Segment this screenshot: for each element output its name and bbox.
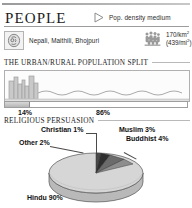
pie-label-christian: Christian 1% — [41, 126, 83, 133]
pop-density-tag-label: Pop. density medium — [109, 14, 171, 21]
pie-label-muslim: Muslim 3% — [119, 126, 155, 133]
languages-fact: Nepali, Maithili, Bhojpuri — [4, 31, 99, 50]
top-divider-rule — [2, 3, 190, 5]
density-values: 170/km2 (439/mi2) — [166, 31, 192, 47]
pie-label-hindu: Hindu 90% — [27, 194, 63, 201]
leader-line-christian-horizontal — [86, 133, 97, 134]
urban-rural-section-header: THE URBAN/RURAL POPULATION SPLIT — [4, 58, 190, 67]
religion-pie-chart: Christian 1% Muslim 3% Buddhist 4% Other… — [0, 126, 192, 208]
section-divider-rule — [152, 62, 190, 63]
facts-row: Nepali, Maithili, Bhojpuri 170/km2 (439/… — [4, 30, 190, 54]
urban-percent-label: 14% — [18, 109, 32, 116]
face-profile-icon — [4, 31, 24, 50]
urban-share-fill — [5, 102, 30, 107]
urban-rural-split-bar — [4, 101, 188, 108]
crowd-people-icon — [144, 30, 161, 47]
urban-rural-title: THE URBAN/RURAL POPULATION SPLIT — [4, 58, 148, 67]
density-fact: 170/km2 (439/mi2) — [144, 30, 192, 47]
density-metric-exponent: 2 — [187, 29, 189, 34]
religion-title: RELIGIOUS PERSUASION — [4, 116, 94, 125]
pie-label-buddhist: Buddhist 4% — [126, 135, 168, 142]
languages-value: Nepali, Maithili, Bhojpuri — [29, 37, 99, 44]
section-divider-rule-2 — [98, 120, 190, 121]
urban-rural-illustration — [4, 70, 190, 102]
page-title: PEOPLE — [4, 10, 67, 27]
rural-percent-label: 86% — [96, 109, 110, 116]
triangle-right-icon — [94, 12, 104, 23]
leader-line-christian-vertical — [96, 133, 97, 153]
density-imperial: (439/mi2) — [166, 39, 192, 47]
pop-density-tag: Pop. density medium — [93, 8, 190, 26]
pie-label-other: Other 2% — [19, 139, 50, 146]
religion-section-header: RELIGIOUS PERSUASION — [4, 116, 190, 125]
people-header-underline — [4, 26, 189, 27]
